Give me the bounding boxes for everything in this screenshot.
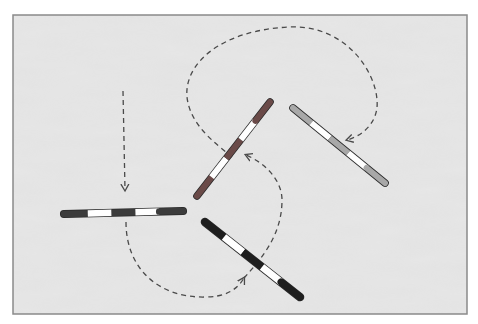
pole-horizontal-left [64, 211, 183, 214]
arena-texture [14, 16, 466, 313]
pole-stripe-dark [159, 211, 183, 212]
pole-stripe-dark [64, 213, 88, 214]
pole-stripe-white [135, 212, 159, 213]
course-diagram [0, 0, 478, 324]
pole-stripe-white [88, 213, 112, 214]
pole-stripe-dark [112, 212, 136, 213]
